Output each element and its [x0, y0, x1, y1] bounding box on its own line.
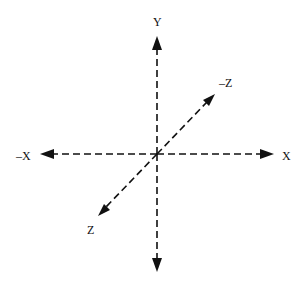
x-axis-label: X: [282, 150, 291, 162]
z-axis-label: Z: [87, 224, 94, 236]
axes-svg: [0, 0, 306, 287]
z-axis-positive: [106, 154, 157, 207]
x-negative-arrowhead: [40, 149, 54, 159]
z-axis-negative: [157, 102, 207, 154]
x-positive-arrowhead: [260, 149, 274, 159]
y-negative-arrowhead: [152, 258, 162, 272]
y-positive-arrowhead: [152, 36, 162, 50]
coordinate-axes-diagram: Y X –X –Z Z: [0, 0, 306, 287]
y-axis-label: Y: [153, 16, 162, 28]
negative-x-axis-label: –X: [16, 150, 31, 162]
negative-z-axis-label: –Z: [219, 77, 232, 89]
